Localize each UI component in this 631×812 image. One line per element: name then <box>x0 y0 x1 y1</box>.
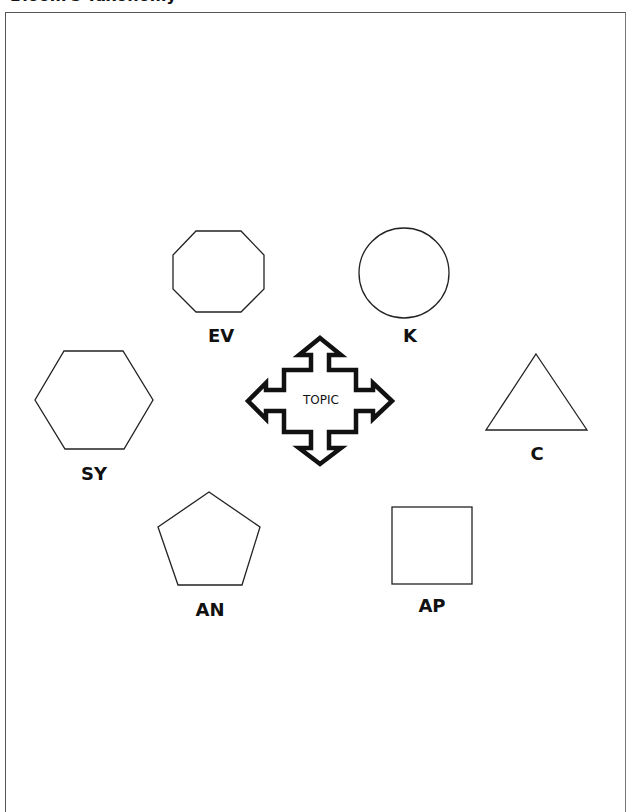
node-label-c: C <box>530 443 543 464</box>
center-topic-label: TOPIC <box>303 393 339 407</box>
triangle-shape <box>486 354 587 430</box>
hexagon-shape <box>35 351 153 449</box>
node-label-sy: SY <box>81 463 107 484</box>
node-label-ap: AP <box>418 595 445 616</box>
octagon-shape <box>173 231 264 312</box>
square-shape <box>392 507 472 584</box>
node-label-k: K <box>403 325 417 346</box>
node-label-ev: EV <box>208 325 234 346</box>
pentagon-shape <box>158 492 260 585</box>
circle-shape <box>359 228 449 318</box>
node-label-an: AN <box>196 599 225 620</box>
